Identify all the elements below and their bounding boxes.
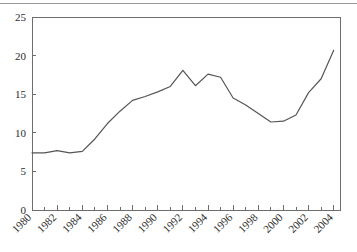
plot-area-background	[32, 17, 340, 210]
x-tick-label: 1984	[60, 211, 84, 235]
x-tick-label: 1998	[236, 211, 260, 235]
x-tick-label: 2004	[311, 211, 335, 235]
x-tick-label: 1988	[110, 211, 134, 235]
line-chart-figure: 0510152025 19801982198419861988199019921…	[0, 0, 357, 252]
screenshot-root: 0510152025 19801982198419861988199019921…	[0, 0, 357, 252]
x-tick-label: 2000	[261, 211, 285, 235]
x-axis-labels: 1980198219841986198819901992199419961998…	[9, 211, 335, 235]
y-tick-label: 20	[15, 50, 27, 62]
x-tick-label: 1980	[9, 211, 33, 235]
x-tick-label: 1990	[135, 211, 159, 235]
x-tick-label: 1982	[35, 211, 59, 235]
y-tick-label: 25	[15, 11, 27, 23]
y-tick-label: 5	[21, 165, 27, 177]
x-tick-label: 2002	[286, 211, 310, 235]
x-tick-label: 1996	[211, 211, 235, 235]
x-tick-label: 1992	[160, 211, 184, 235]
chart-canvas: 0510152025 19801982198419861988199019921…	[0, 0, 357, 252]
x-tick-label: 1986	[85, 211, 109, 235]
y-tick-label: 10	[15, 127, 27, 139]
x-tick-label: 1994	[185, 211, 209, 235]
y-tick-label: 15	[15, 88, 27, 100]
